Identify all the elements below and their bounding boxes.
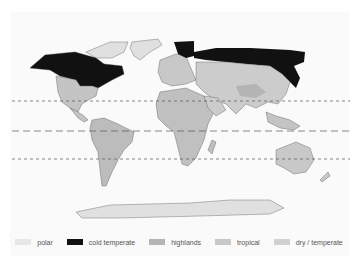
southeast-asia-islands <box>266 112 300 130</box>
legend-label: dry / temperate <box>296 239 343 246</box>
legend-label: tropical <box>237 239 260 246</box>
arctic-islands <box>86 42 128 58</box>
swatch-dry-temperate <box>274 239 290 245</box>
legend-item-highlands: highlands <box>149 239 201 246</box>
legend-item-tropical: tropical <box>215 239 260 246</box>
legend-label: cold temperate <box>89 239 135 246</box>
new-zealand <box>320 172 330 182</box>
madagascar <box>208 140 216 154</box>
swatch-highlands <box>149 239 165 245</box>
swatch-cold-temperate <box>67 239 83 245</box>
legend-item-polar: polar <box>15 239 53 246</box>
legend: polar cold temperate highlands tropical … <box>0 232 358 252</box>
legend-label: highlands <box>171 239 201 246</box>
europe <box>158 54 196 86</box>
greenland <box>130 39 162 60</box>
legend-item-cold-temperate: cold temperate <box>67 239 135 246</box>
swatch-polar <box>15 239 31 245</box>
antarctica <box>76 200 284 218</box>
legend-item-dry-temperate: dry / temperate <box>274 239 343 246</box>
world-map <box>0 0 358 225</box>
south-america <box>90 118 134 186</box>
australia <box>276 142 314 174</box>
legend-label: polar <box>37 239 53 246</box>
swatch-tropical <box>215 239 231 245</box>
